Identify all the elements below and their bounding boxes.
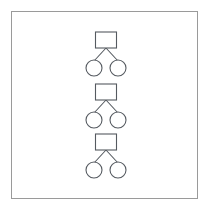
node-circle-2a[interactable]	[86, 112, 102, 128]
edge-parent2-child1	[94, 100, 106, 113]
node-circle-3b[interactable]	[110, 162, 126, 178]
edge-parent3-child1	[94, 150, 106, 163]
edge-parent1-child1	[94, 48, 106, 61]
node-circle-3a[interactable]	[86, 162, 102, 178]
node-square-2[interactable]	[96, 84, 117, 100]
tree-unit-3[interactable]	[86, 134, 126, 178]
pedigree-diagram	[0, 0, 209, 212]
edge-parent1-child2	[106, 48, 118, 61]
edge-parent2-child2	[106, 100, 118, 113]
node-circle-2b[interactable]	[110, 112, 126, 128]
screenshot-canvas	[0, 0, 209, 212]
node-square-1[interactable]	[96, 32, 117, 48]
tree-unit-2[interactable]	[86, 84, 126, 128]
node-circle-1a[interactable]	[86, 60, 102, 76]
node-square-3[interactable]	[96, 134, 117, 150]
edge-parent3-child2	[106, 150, 118, 163]
tree-unit-1[interactable]	[86, 32, 126, 76]
node-circle-1b[interactable]	[110, 60, 126, 76]
